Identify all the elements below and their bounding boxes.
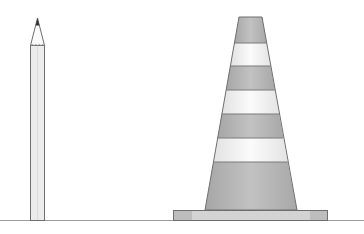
cone-band-6 <box>214 138 288 162</box>
cone-band-5 <box>218 114 284 138</box>
cone-band-4 <box>222 90 279 114</box>
scene-svg <box>0 0 364 234</box>
cone-band-2 <box>230 43 270 66</box>
cone-band-1 <box>234 17 266 43</box>
cone-band-3 <box>226 66 275 90</box>
traffic-cone-icon <box>174 17 328 221</box>
pencil-icon <box>31 18 45 221</box>
cone-band-7 <box>205 162 297 210</box>
illustration-canvas: Pencil Traffic cone <box>0 0 364 234</box>
